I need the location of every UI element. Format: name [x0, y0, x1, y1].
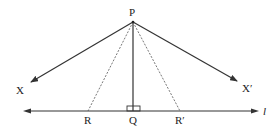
label-r-prime: R′ — [175, 114, 185, 126]
label-l: l — [263, 105, 266, 117]
line-l-right-arrow-icon — [251, 109, 259, 114]
geometry-diagram: P X X′ R Q R′ l — [0, 0, 278, 131]
ray-px — [31, 22, 133, 82]
point-p-dot — [132, 21, 135, 24]
label-q: Q — [129, 114, 137, 126]
label-p: P — [129, 6, 135, 18]
label-x: X — [16, 84, 24, 96]
label-x-prime: X′ — [242, 82, 252, 94]
line-l-left-arrow-icon — [23, 109, 31, 114]
label-r: R — [84, 114, 92, 126]
